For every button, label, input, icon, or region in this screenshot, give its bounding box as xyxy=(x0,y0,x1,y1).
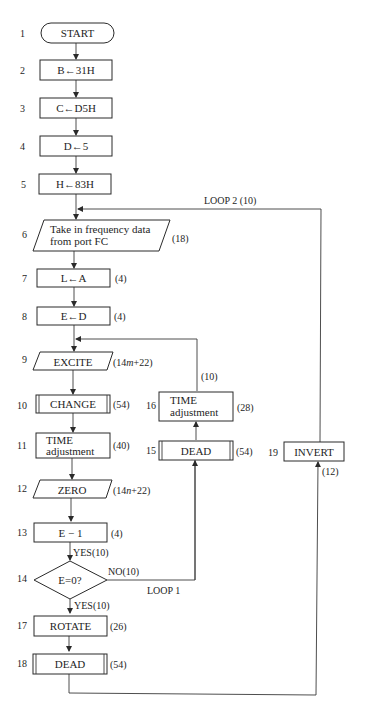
step-number: 1 xyxy=(20,28,25,39)
step-number: 2 xyxy=(20,65,25,76)
step-number: 16 xyxy=(146,400,156,411)
cycle-cost: (26) xyxy=(110,621,127,633)
step-number: 19 xyxy=(268,447,278,458)
node-e-decrement: 13 E − 1 (4) xyxy=(17,523,123,542)
node-label-line2: adjustment xyxy=(46,445,94,457)
node-label: E − 1 xyxy=(59,527,83,539)
step-number: 5 xyxy=(21,179,26,190)
node-label: C←D5H xyxy=(56,102,96,114)
node-decision-e-zero: 14 E=0? xyxy=(17,561,107,599)
node-label: DEAD xyxy=(55,658,86,670)
node-label-line1: TIME xyxy=(170,394,197,406)
cycle-cost: (54) xyxy=(113,399,130,411)
node-d-assign: 4 D←5 xyxy=(20,136,112,156)
node-take-in-frequency: 6 Take in frequency data from port FC (1… xyxy=(22,220,189,251)
cycle-cost: (54) xyxy=(236,446,253,458)
edge-label-yes-14: YES(10) xyxy=(74,600,110,612)
step-number: 15 xyxy=(146,445,156,456)
node-label: E←D xyxy=(61,310,87,322)
node-label: EXCITE xyxy=(53,356,92,368)
node-label: ROTATE xyxy=(50,620,92,632)
node-c-assign: 3 C←D5H xyxy=(20,98,112,118)
node-label: DEAD xyxy=(181,445,212,457)
node-zero: 12 ZERO (14n+22) xyxy=(17,480,150,498)
step-number: 9 xyxy=(22,354,27,365)
cycle-cost: (4) xyxy=(111,528,123,540)
cycle-cost: (14m+22) xyxy=(113,357,153,369)
node-label-line2: adjustment xyxy=(170,406,218,418)
flowchart: 1 START 2 B←31H 3 C←D5H 4 D←5 5 H←83H 6 … xyxy=(0,0,373,714)
cycle-cost: (4) xyxy=(114,311,126,323)
cycle-cost: (18) xyxy=(172,233,189,245)
node-label-line1: Take in frequency data xyxy=(50,223,150,235)
step-number: 4 xyxy=(20,141,25,152)
node-label: START xyxy=(61,27,95,39)
node-label: L←A xyxy=(61,272,87,284)
node-excite: 9 EXCITE (14m+22) xyxy=(22,352,153,370)
node-l-assign: 7 L←A (4) xyxy=(22,269,127,287)
node-label: B←31H xyxy=(57,64,94,76)
step-number: 13 xyxy=(17,527,27,538)
step-number: 6 xyxy=(22,229,27,240)
node-change: 10 CHANGE (54) xyxy=(17,395,130,413)
step-number: 8 xyxy=(22,311,27,322)
edge-label-yes-13: YES(10) xyxy=(73,547,109,559)
node-dead-18: 18 DEAD (54) xyxy=(17,654,127,674)
node-e-assign: 8 E←D (4) xyxy=(22,307,126,325)
node-label: INVERT xyxy=(294,446,334,458)
node-start: 1 START xyxy=(20,23,114,43)
step-number: 11 xyxy=(17,440,27,451)
cycle-cost: (28) xyxy=(237,402,254,414)
edge-label-loop2: LOOP 2 (10) xyxy=(204,195,256,207)
edge-label-no: NO(10) xyxy=(108,566,139,578)
node-dead-15: 15 DEAD (54) xyxy=(146,441,253,460)
node-label: CHANGE xyxy=(50,398,96,410)
step-number: 3 xyxy=(20,103,25,114)
step-number: 7 xyxy=(22,273,27,284)
node-b-assign: 2 B←31H xyxy=(20,60,112,80)
node-time-adjustment-11: 11 TIME adjustment (40) xyxy=(17,433,130,458)
cycle-cost: (54) xyxy=(110,659,127,671)
cycle-cost: (12) xyxy=(322,466,339,478)
node-label: E=0? xyxy=(58,574,81,586)
cycle-cost: (14n+22) xyxy=(113,485,150,497)
cycle-cost: (40) xyxy=(113,440,130,452)
step-number: 17 xyxy=(17,620,27,631)
node-rotate: 17 ROTATE (26) xyxy=(17,616,127,636)
step-number: 10 xyxy=(17,400,27,411)
step-number: 14 xyxy=(17,573,27,584)
loop1-cost-label: (10) xyxy=(201,371,218,383)
node-h-assign: 5 H←83H xyxy=(21,174,111,194)
node-label-line2: from port FC xyxy=(50,235,108,247)
step-number: 12 xyxy=(17,483,27,494)
node-label: ZERO xyxy=(58,484,87,496)
step-number: 18 xyxy=(17,658,27,669)
node-time-adjustment-16: 16 TIME adjustment (28) xyxy=(146,392,254,421)
node-label: D←5 xyxy=(64,140,89,152)
node-invert: 19 INVERT (12) xyxy=(268,442,344,478)
node-label: H←83H xyxy=(56,178,94,190)
edge-label-loop1: LOOP 1 xyxy=(147,585,180,596)
cycle-cost: (4) xyxy=(115,273,127,285)
